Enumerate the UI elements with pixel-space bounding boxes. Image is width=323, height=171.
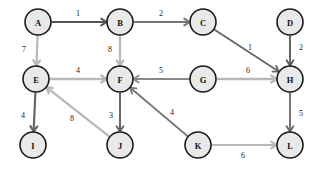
edge-weight-g-h: 6 [246,66,250,75]
edge-weight-c-h: 1 [248,43,252,52]
graph-node-a[interactable]: A [25,9,51,35]
graph-edge-j-e [47,87,110,136]
node-label-e: E [33,75,39,85]
edge-weight-b-c: 2 [159,9,163,18]
node-label-g: G [200,75,207,85]
arrowheads-layer [30,19,293,149]
edge-weight-k-l: 6 [241,151,245,160]
node-label-d: D [287,18,293,28]
node-label-b: B [117,18,123,28]
graph-node-b[interactable]: B [107,9,133,35]
node-label-f: F [117,75,122,85]
edge-weight-labels-layer: 127845126438456 [21,9,303,160]
node-label-h: H [287,75,294,85]
graph-node-d[interactable]: D [277,9,303,35]
edge-weight-f-j: 3 [109,111,113,120]
node-label-c: C [200,18,206,28]
edge-weight-a-e: 7 [22,45,26,54]
edges-layer [34,22,290,145]
nodes-layer: ABCDEFGHIJKL [20,9,303,158]
graph-node-f[interactable]: F [107,66,133,92]
edge-weight-b-f: 8 [108,45,112,54]
edge-weight-e-i: 4 [21,111,25,120]
graph-edge-a-e [36,35,37,65]
edge-weight-g-f: 5 [159,66,163,75]
graph-edge-e-i [34,92,36,131]
graph-edge-k-f [130,88,187,137]
graph-node-i[interactable]: I [20,132,46,158]
node-label-a: A [35,18,42,28]
edge-weight-h-l: 5 [299,109,303,118]
graph-figure: ABCDEFGHIJKL 127845126438456 [0,0,323,171]
graph-canvas: ABCDEFGHIJKL 127845126438456 [0,0,323,171]
edge-weight-a-b: 1 [76,9,80,18]
graph-node-e[interactable]: E [23,66,49,92]
graph-node-h[interactable]: H [277,66,303,92]
graph-node-j[interactable]: J [107,132,133,158]
edge-weight-j-e: 8 [70,114,74,123]
edge-weight-e-f: 4 [76,66,80,75]
edge-weight-k-f: 4 [170,108,174,117]
node-label-k: K [195,141,202,151]
graph-node-k[interactable]: K [185,132,211,158]
graph-node-g[interactable]: G [190,66,216,92]
node-label-l: L [287,141,293,151]
edge-weight-d-h: 2 [299,43,303,52]
graph-node-c[interactable]: C [190,9,216,35]
graph-node-l[interactable]: L [277,132,303,158]
